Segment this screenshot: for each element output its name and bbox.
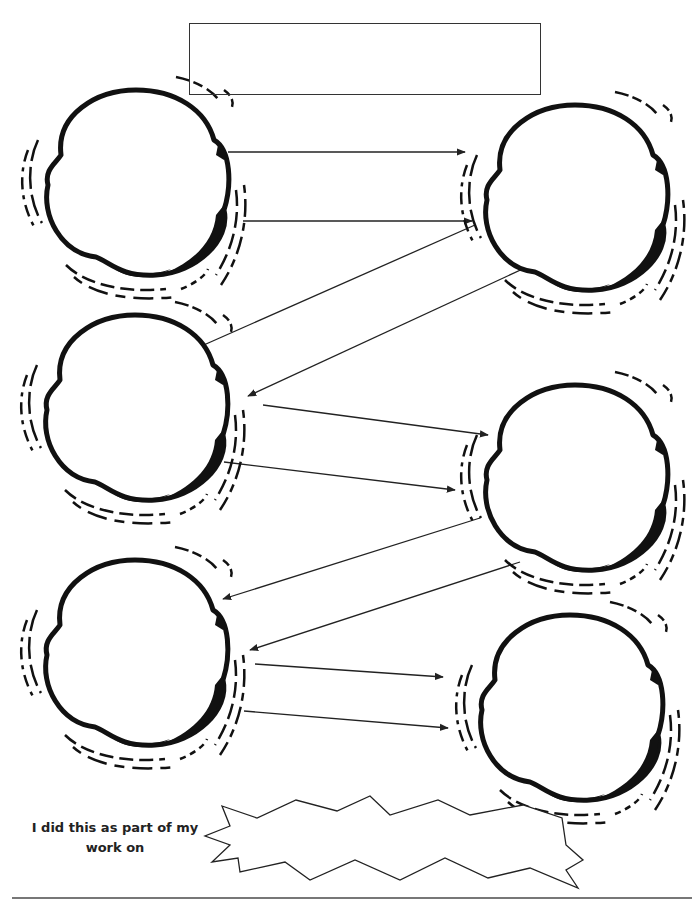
caption-line-2: work on — [20, 838, 210, 858]
arrow-node4-to-node5-a — [223, 518, 480, 599]
title-input-box[interactable] — [189, 23, 541, 95]
bubble-node-6[interactable] — [456, 602, 679, 823]
caption-line-1: I did this as part of my — [20, 818, 210, 838]
bubble-node-5[interactable] — [21, 547, 244, 768]
zigzag-banner[interactable] — [205, 796, 583, 888]
bottom-divider — [12, 897, 692, 899]
arrow-node3-to-node4-b — [224, 462, 455, 490]
arrow-node4-to-node5-b — [250, 562, 520, 650]
bubble-node-3[interactable] — [21, 302, 244, 523]
arrow-node3-to-node4-a — [263, 405, 488, 435]
diagram-canvas — [0, 0, 695, 901]
arrow-node5-to-node6-a — [255, 664, 443, 677]
arrow-node5-to-node6-b — [244, 711, 448, 728]
arrows — [197, 152, 527, 728]
caption-text: I did this as part of my work on — [20, 818, 210, 858]
arrow-node2-to-node3-a — [197, 225, 475, 348]
arrow-node2-to-node3-b — [248, 267, 527, 396]
bubble-node-4[interactable] — [461, 372, 684, 593]
bubble-node-1[interactable] — [22, 77, 245, 298]
bubble-node-2[interactable] — [461, 92, 684, 313]
